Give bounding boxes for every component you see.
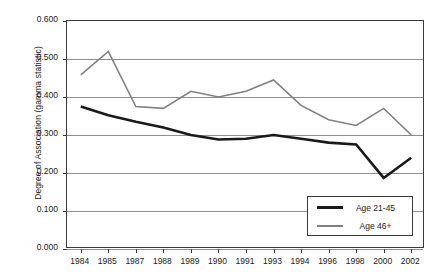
x-axis-tick (411, 249, 412, 253)
x-axis-tick (136, 249, 137, 253)
y-axis-tick-label: 0.300 (18, 128, 58, 138)
y-axis-tick-label: 0.000 (18, 242, 58, 252)
y-axis-tick-label: 0.400 (18, 90, 58, 100)
legend-label-age-21-45: Age 21-45 (343, 203, 412, 213)
x-axis-tick (108, 249, 109, 253)
x-axis-tick (384, 249, 385, 253)
x-axis-tick (218, 249, 219, 253)
x-axis-tick (356, 249, 357, 253)
chart-legend[interactable]: Age 21-45 Age 46+ (307, 196, 413, 236)
x-axis-tick (329, 249, 330, 253)
series-line-age-21-45 (81, 107, 411, 178)
y-axis-tick-label: 0.100 (18, 204, 58, 214)
x-axis-tick (301, 249, 302, 253)
x-axis-tick (274, 249, 275, 253)
y-axis-tick (63, 249, 67, 250)
gridline (67, 249, 423, 250)
y-axis-title: Degree of Association (gamma statistic) (33, 13, 43, 233)
chart-container: Degree of Association (gamma statistic) … (0, 0, 439, 277)
series-line-age-46 (81, 51, 411, 135)
legend-label-age-46-plus: Age 46+ (343, 221, 412, 231)
y-axis-tick-label: 0.200 (18, 166, 58, 176)
y-axis-tick-label: 0.500 (18, 52, 58, 62)
x-axis-tick (191, 249, 192, 253)
legend-item-1[interactable]: Age 46+ (308, 216, 412, 235)
legend-item-0[interactable]: Age 21-45 (308, 198, 412, 217)
legend-swatch-age-21-45 (317, 206, 343, 209)
x-axis-tick-label: 2002 (393, 256, 427, 266)
x-axis-tick (163, 249, 164, 253)
y-axis-tick-label: 0.600 (18, 14, 58, 24)
legend-swatch-age-46-plus (317, 225, 343, 227)
x-axis-tick (246, 249, 247, 253)
x-axis-tick (81, 249, 82, 253)
